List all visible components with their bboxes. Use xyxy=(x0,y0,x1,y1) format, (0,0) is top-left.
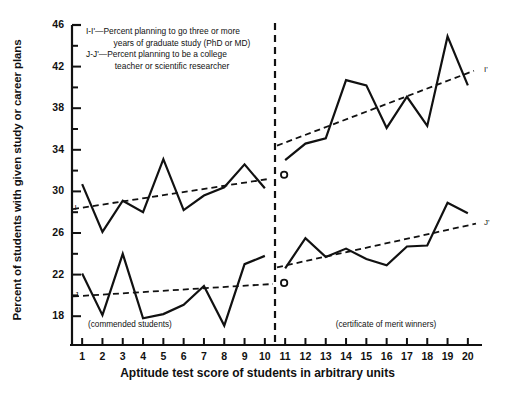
y-tick-label-38: 38 xyxy=(42,101,64,113)
x-axis-title: Aptitude test score of students in arbit… xyxy=(0,366,515,380)
commended-students-annotation: (commended students) xyxy=(88,320,172,329)
x-tick-label-5: 5 xyxy=(155,350,171,362)
x-tick-label-3: 3 xyxy=(115,350,131,362)
J-reference-point xyxy=(281,280,287,286)
label-J-prime: J' xyxy=(484,218,490,227)
y-tick-label-46: 46 xyxy=(42,18,64,30)
y-tick-label-42: 42 xyxy=(42,60,64,72)
trendline-1 xyxy=(277,71,474,146)
x-tick-label-12: 12 xyxy=(297,350,313,362)
label-I: I xyxy=(74,203,76,212)
x-tick-label-6: 6 xyxy=(176,350,192,362)
x-tick-label-10: 10 xyxy=(257,350,273,362)
trendline-0 xyxy=(73,179,269,209)
x-tick-label-17: 17 xyxy=(399,350,415,362)
x-tick-label-15: 15 xyxy=(358,350,374,362)
plot-area xyxy=(0,0,515,398)
trendline-3 xyxy=(277,224,476,268)
y-tick-label-22: 22 xyxy=(42,268,64,280)
y-tick-label-18: 18 xyxy=(42,309,64,321)
x-tick-label-19: 19 xyxy=(440,350,456,362)
x-tick-label-4: 4 xyxy=(135,350,151,362)
label-J: J xyxy=(74,290,78,299)
I-reference-point xyxy=(281,172,287,178)
x-tick-label-16: 16 xyxy=(379,350,395,362)
x-tick-label-8: 8 xyxy=(216,350,232,362)
x-tick-label-2: 2 xyxy=(94,350,110,362)
x-tick-label-11: 11 xyxy=(277,350,293,362)
trendline-2 xyxy=(73,284,273,296)
merit-winners-annotation: (certificate of merit winners) xyxy=(336,320,437,329)
y-tick-label-30: 30 xyxy=(42,184,64,196)
series-I-right xyxy=(285,36,468,160)
series-I-left xyxy=(82,159,265,232)
x-tick-label-13: 13 xyxy=(318,350,334,362)
series-J-right xyxy=(285,203,468,269)
x-tick-label-7: 7 xyxy=(196,350,212,362)
x-tick-label-9: 9 xyxy=(237,350,253,362)
x-tick-label-14: 14 xyxy=(338,350,354,362)
x-tick-label-1: 1 xyxy=(74,350,90,362)
y-tick-label-26: 26 xyxy=(42,226,64,238)
x-tick-label-18: 18 xyxy=(419,350,435,362)
x-tick-label-20: 20 xyxy=(460,350,476,362)
chart-figure: Percent of students with given study or … xyxy=(0,0,515,398)
label-I-prime: I' xyxy=(484,65,488,74)
y-tick-label-34: 34 xyxy=(42,143,64,155)
